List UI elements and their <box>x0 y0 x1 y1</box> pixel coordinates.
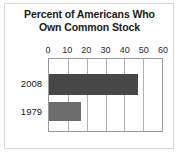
x-tick-label-60: 60 <box>158 44 168 56</box>
y-category-label-2008: 2008 <box>21 78 42 89</box>
plot-area <box>48 58 163 132</box>
x-tick-label-10: 10 <box>62 44 72 56</box>
y-axis-category-labels: 2008 1979 <box>4 58 44 132</box>
x-tick-label-20: 20 <box>81 44 91 56</box>
x-axis-tick-labels: 0 10 20 30 40 50 60 <box>48 44 163 56</box>
chart-title-line-1: Percent of Americans Who <box>10 8 169 21</box>
bar-series <box>49 59 162 131</box>
x-tick-label-30: 30 <box>100 44 110 56</box>
bar-2008 <box>49 74 138 95</box>
y-category-label-1979: 1979 <box>21 106 42 117</box>
chart-title: Percent of Americans Who Own Common Stoc… <box>10 8 169 34</box>
bar-1979 <box>49 102 81 121</box>
x-tick-label-0: 0 <box>45 44 50 56</box>
x-tick-label-50: 50 <box>139 44 149 56</box>
x-tick-label-40: 40 <box>120 44 130 56</box>
chart-figure: Percent of Americans Who Own Common Stoc… <box>0 0 179 155</box>
chart-title-line-2: Own Common Stock <box>10 21 169 34</box>
